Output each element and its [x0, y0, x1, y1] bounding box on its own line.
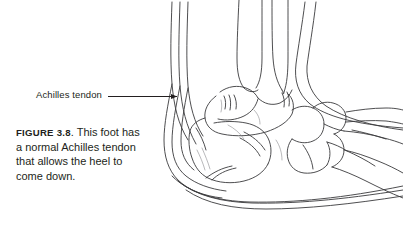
shading-strokes [197, 100, 282, 170]
figure-number-label: FIGURE 3.8 [16, 127, 71, 138]
talus-bone [205, 94, 294, 136]
metatarsal-bones [332, 108, 403, 198]
shin-instep-outline [296, 2, 403, 130]
sole-outline [172, 176, 403, 209]
achilles-tendon-label: Achilles tendon [36, 89, 102, 101]
ankle-mortise [220, 86, 292, 110]
achilles-tendon-structure [171, 2, 203, 144]
calcaneus-bone [189, 118, 271, 183]
fibula-bone [272, 0, 288, 94]
figure-caption: FIGURE 3.8. This foot has a normal Achil… [16, 125, 148, 183]
tibia-bone [237, 0, 262, 92]
figure-panel: Achilles tendon FIGURE 3.8. This foot ha… [0, 0, 403, 230]
foot-anatomy-illustration [0, 0, 403, 230]
